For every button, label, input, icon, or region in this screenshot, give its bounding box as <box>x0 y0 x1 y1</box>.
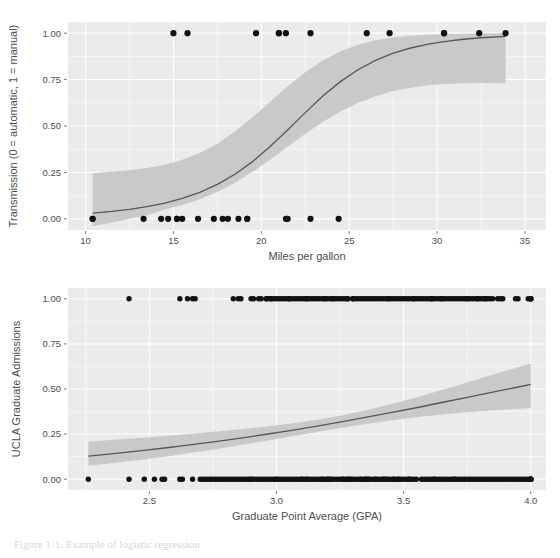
data-point <box>238 296 243 301</box>
figure-page: 1015202530350.000.250.500.751.00Miles pe… <box>0 0 560 558</box>
x-tick-label: 4.0 <box>524 495 537 506</box>
data-point <box>431 476 436 481</box>
data-point <box>253 30 259 36</box>
y-tick-label: 1.00 <box>43 293 62 304</box>
data-point <box>441 30 447 36</box>
data-point <box>429 296 434 301</box>
data-point <box>158 216 164 222</box>
data-point <box>391 476 396 481</box>
data-point <box>411 296 416 301</box>
data-point <box>90 216 96 222</box>
data-point <box>190 476 195 481</box>
data-point <box>406 476 411 481</box>
data-point <box>452 476 457 481</box>
x-tick-label: 2.5 <box>143 495 156 506</box>
data-point <box>285 216 291 222</box>
data-point <box>195 216 201 222</box>
y-tick-label: 0.75 <box>43 74 62 85</box>
data-point <box>220 216 226 222</box>
data-point <box>502 30 508 36</box>
x-tick-label: 25 <box>344 235 355 246</box>
data-point <box>307 30 313 36</box>
data-point <box>248 476 253 481</box>
data-point <box>86 476 91 481</box>
data-point <box>387 30 393 36</box>
y-axis-title: Transmission (0 = automatic, 1 = manual) <box>7 25 19 228</box>
data-point <box>271 296 276 301</box>
data-point <box>162 476 167 481</box>
x-tick-label: 20 <box>256 235 267 246</box>
x-tick-label: 35 <box>520 235 531 246</box>
y-tick-label: 1.00 <box>43 28 62 39</box>
data-point <box>165 216 171 222</box>
data-point <box>350 296 355 301</box>
data-point <box>322 296 327 301</box>
data-point <box>304 476 309 481</box>
x-axis-title: Miles per gallon <box>268 250 345 262</box>
y-tick-label: 0.75 <box>43 338 62 349</box>
data-point <box>259 296 264 301</box>
data-point <box>364 30 370 36</box>
data-point <box>383 476 388 481</box>
data-point <box>184 30 190 36</box>
mtcars-transmission-svg: 1015202530350.000.250.500.751.00Miles pe… <box>0 0 560 272</box>
data-point <box>180 476 185 481</box>
data-point <box>140 216 146 222</box>
x-axis-title: Graduate Point Average (GPA) <box>232 510 382 522</box>
y-tick-label: 0.00 <box>43 474 62 485</box>
chart-ucla-admissions: 2.53.03.54.00.000.250.500.751.00Graduate… <box>0 272 560 534</box>
data-point <box>211 216 217 222</box>
data-point <box>244 216 250 222</box>
data-point <box>170 30 176 36</box>
data-point <box>231 296 236 301</box>
data-point <box>174 216 180 222</box>
x-tick-label: 3.0 <box>270 495 283 506</box>
data-point <box>386 296 391 301</box>
y-axis-title: UCLA Graduate Admissions <box>10 320 22 457</box>
data-point <box>439 296 444 301</box>
data-point <box>327 476 332 481</box>
y-tick-label: 0.00 <box>43 213 62 224</box>
data-point <box>482 296 487 301</box>
data-point <box>192 296 197 301</box>
data-point <box>500 296 505 301</box>
data-point <box>185 296 190 301</box>
data-point <box>235 216 241 222</box>
data-point <box>330 296 335 301</box>
x-tick-label: 3.5 <box>397 495 410 506</box>
data-point <box>126 296 131 301</box>
data-point <box>414 476 419 481</box>
data-point <box>177 296 182 301</box>
data-point <box>476 30 482 36</box>
x-tick-label: 15 <box>168 235 179 246</box>
data-point <box>320 476 325 481</box>
data-point <box>283 30 289 36</box>
data-point <box>152 476 157 481</box>
data-point <box>299 476 304 481</box>
data-point <box>304 296 309 301</box>
data-point <box>336 216 342 222</box>
x-tick-label: 10 <box>80 235 91 246</box>
data-point <box>464 296 469 301</box>
data-point <box>365 476 370 481</box>
data-point <box>274 476 279 481</box>
data-point <box>287 296 292 301</box>
x-tick-label: 30 <box>432 235 443 246</box>
data-point <box>307 216 313 222</box>
data-point <box>276 30 282 36</box>
y-tick-label: 0.50 <box>43 120 62 131</box>
data-point <box>396 476 401 481</box>
figure-caption: Figure 1-1. Example of logistic regressi… <box>14 538 560 551</box>
chart-mtcars-transmission: 1015202530350.000.250.500.751.00Miles pe… <box>0 0 560 272</box>
figure-caption-strip: Figure 1-1. Example of logistic regressi… <box>0 538 560 558</box>
data-point <box>340 476 345 481</box>
data-point <box>528 296 533 301</box>
data-point <box>345 296 350 301</box>
data-point <box>126 476 131 481</box>
y-tick-label: 0.25 <box>43 428 62 439</box>
data-point <box>475 296 480 301</box>
y-tick-label: 0.50 <box>43 383 62 394</box>
data-point <box>348 476 353 481</box>
y-tick-label: 0.25 <box>43 167 62 178</box>
data-point <box>515 296 520 301</box>
